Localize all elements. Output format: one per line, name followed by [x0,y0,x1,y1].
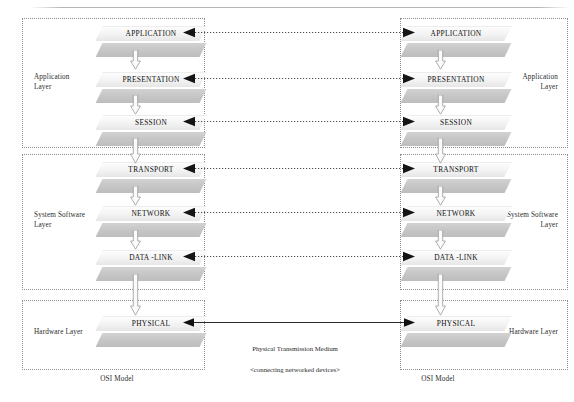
slab-bottom-face [401,267,512,281]
peer-connection-network [183,207,415,218]
slab-bottom-face [96,132,207,146]
slab-bottom-face [96,267,207,281]
left-arrow-application-presentation [130,50,141,70]
slab-bottom-face [96,223,207,237]
top-rule-divider [30,7,570,8]
right-arrow-session-transport [435,138,446,158]
physical-medium-label: Physical Transmission Medium <connecting… [215,334,375,385]
right-arrow-transport-network [435,186,446,206]
left-arrow-transport-network [130,186,141,206]
right-arrow-network-data-link [435,230,446,250]
right-layer-network: NETWORK [404,206,508,238]
right-layer-transport: TRANSPORT [404,162,508,194]
right-layer-presentation: PRESENTATION [404,72,508,104]
right-layer-data-link: DATA -LINK [404,250,508,282]
left-arrow-presentation-session [130,95,141,115]
peer-connection-presentation [183,73,415,84]
peer-connection-session [183,116,415,127]
right-layer-application-label: APPLICATION [404,27,508,40]
slab-bottom-face [401,333,512,347]
peer-connection-data-link [183,251,415,262]
peer-connection-application [183,27,415,38]
right-layer-session-label: SESSION [404,116,508,129]
physical-medium-label-line2: <connecting networked devices> [215,365,375,375]
slab-bottom-face [96,333,207,347]
slab-bottom-face [96,89,207,103]
left-arrow-session-transport [130,138,141,158]
slab-bottom-face [401,43,512,57]
slab-bottom-face [401,223,512,237]
slab-bottom-face [401,132,512,146]
physical-medium-label-line1: Physical Transmission Medium [215,344,375,354]
osi-model-diagram: Application Layer System Software Layer … [0,0,574,402]
right-osi-model-caption: OSI Model [393,375,483,383]
peer-connection-transport [183,163,415,174]
left-osi-model-caption: OSI Model [72,375,162,383]
slab-bottom-face [96,43,207,57]
left-arrow-data-link-physical [130,274,141,294]
right-arrow-data-link-physical [435,274,446,294]
right-layer-application: APPLICATION [404,26,508,58]
peer-connection-physical-medium [183,317,415,328]
right-layer-data-link-label: DATA -LINK [404,251,508,264]
left-arrow-network-data-link [130,230,141,250]
right-layer-physical-label: PHYSICAL [404,317,508,330]
slab-bottom-face [401,89,512,103]
right-layer-physical: PHYSICAL [404,316,508,348]
slab-bottom-face [401,179,512,193]
right-layer-network-label: NETWORK [404,207,508,220]
right-layer-transport-label: TRANSPORT [404,163,508,176]
right-layer-presentation-label: PRESENTATION [404,73,508,86]
slab-bottom-face [96,179,207,193]
right-arrow-application-presentation [435,50,446,70]
right-layer-session: SESSION [404,115,508,147]
right-arrow-presentation-session [435,95,446,115]
